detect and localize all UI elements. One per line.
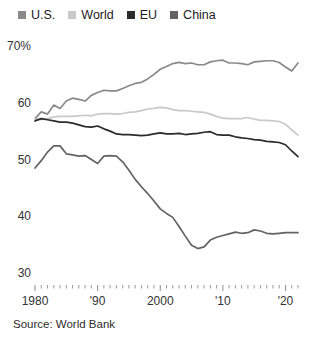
legend-label-world: World — [81, 9, 113, 22]
x-tick-label-1980: 1980 — [5, 294, 65, 308]
legend-item-world[interactable]: World — [68, 9, 113, 22]
y-tick-label-70: 70% — [0, 39, 31, 53]
x-tick-label-2020: '20 — [255, 294, 309, 308]
x-tick-label-2010: '10 — [193, 294, 253, 308]
y-tick-label-50: 50 — [0, 153, 31, 167]
legend-label-us: U.S. — [31, 9, 55, 22]
series-line-us — [35, 60, 298, 118]
legend-label-china: China — [183, 9, 216, 22]
y-tick-label-60: 60 — [0, 96, 31, 110]
y-tick-label-30: 30 — [0, 266, 31, 280]
x-tick-label-2000: 2000 — [130, 294, 190, 308]
x-tick-label-1990: '90 — [68, 294, 128, 308]
x-axis-baseline — [0, 279, 309, 293]
legend-label-eu: EU — [140, 9, 157, 22]
legend-item-china[interactable]: China — [170, 9, 216, 22]
series-line-world — [35, 107, 298, 135]
chart-legend: U.S.WorldEUChina — [18, 6, 216, 24]
legend-item-us[interactable]: U.S. — [18, 9, 55, 22]
y-tick-label-40: 40 — [0, 209, 31, 223]
series-line-eu — [35, 119, 298, 157]
legend-swatch-china-icon — [170, 11, 178, 19]
source-note: Source: World Bank — [13, 318, 115, 330]
legend-item-eu[interactable]: EU — [127, 9, 157, 22]
legend-swatch-eu-icon — [127, 11, 135, 19]
series-line-china — [35, 146, 298, 249]
plot-area — [0, 28, 309, 290]
legend-swatch-world-icon — [68, 11, 76, 19]
chart-card: U.S.WorldEUChina 70%60504030 1980'902000… — [0, 0, 309, 343]
legend-swatch-us-icon — [18, 11, 26, 19]
line-chart-svg — [0, 28, 309, 290]
